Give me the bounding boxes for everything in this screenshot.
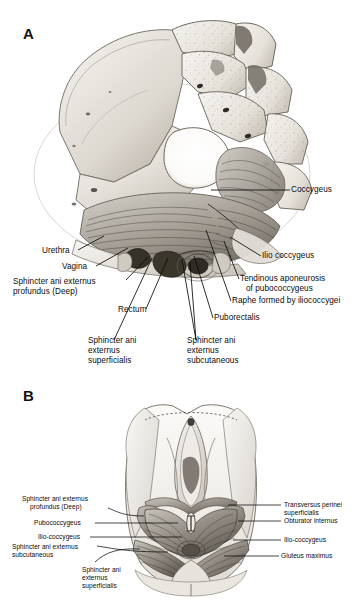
label-b-transversus-perinei-line2: superficialis xyxy=(284,509,319,517)
label-b-obturator-internus: Obturator internus xyxy=(284,517,338,525)
label-sae-superficialis-line2: externus xyxy=(88,346,120,356)
panel-b-letter: B xyxy=(23,388,34,403)
label-raphe-iliococcygei: Raphe formed by iliococcygei xyxy=(232,296,340,306)
label-b-gluteus-maximus: Gluteus maximus xyxy=(281,552,332,560)
label-b-sae-profundus-line2: profundus (Deep) xyxy=(30,503,82,511)
label-rectum: Rectum xyxy=(118,305,147,315)
label-coccygeus: Coccygeus xyxy=(291,185,332,195)
label-b-sae-superficialis-line2: externus xyxy=(82,574,107,582)
label-tendinous-aponeurosis-line2: of pubococcygeus xyxy=(246,284,313,294)
label-b-sae-superficialis-line3: superficialis xyxy=(82,582,117,590)
label-sae-subcutaneous-line1: Sphincter ani xyxy=(187,336,235,346)
label-b-ilio-coccygeus-right: Ilio-coccygeus xyxy=(284,536,326,544)
anatomical-figure: A xyxy=(0,0,364,602)
label-b-ilio-coccygeus-left: Ilio-coccygeus xyxy=(38,533,80,541)
label-ilio-coccygeus: Ilio coccygeus xyxy=(262,251,314,261)
label-b-pubococcygeus: Pubococcygeus xyxy=(34,519,81,527)
label-sae-superficialis-line1: Sphincter ani xyxy=(88,336,136,346)
label-vagina: Vagina xyxy=(62,262,87,272)
label-b-transversus-perinei-line1: Transversus perinei xyxy=(284,501,342,509)
label-tendinous-aponeurosis-line1: Tendinous aponeurosis xyxy=(240,274,325,284)
panel-a-illustration xyxy=(22,14,342,282)
label-b-sae-profundus-line1: Sphincter ani externus xyxy=(22,495,88,503)
label-urethra: Urethra xyxy=(42,246,70,256)
label-sae-subcutaneous-line2: externus xyxy=(187,346,219,356)
label-puborectalis: Puborectalis xyxy=(214,313,260,323)
label-sae-profundus-line1: Sphincter ani externus xyxy=(13,277,96,287)
label-b-sae-subcutaneous-line1: Sphincter ani externus xyxy=(12,543,78,551)
label-sae-subcutaneous-line3: subcutaneous xyxy=(187,356,239,366)
label-b-sae-superficialis-line1: Sphincter ani xyxy=(82,566,121,574)
label-b-sae-subcutaneous-line2: subcutaneous xyxy=(12,551,53,559)
panel-b-illustration xyxy=(105,398,277,598)
label-sae-superficialis-line3: superficialis xyxy=(88,356,131,366)
label-sae-profundus-line2: profundus (Deep) xyxy=(13,287,78,297)
